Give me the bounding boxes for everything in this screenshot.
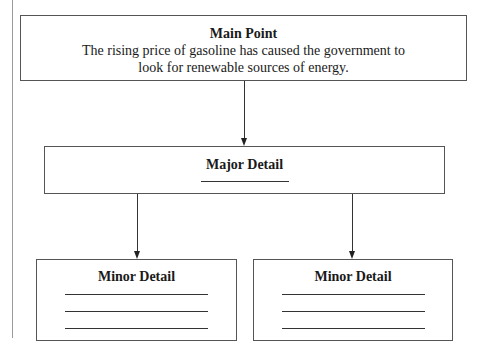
minor-detail-box-left: Minor Detail: [36, 259, 237, 341]
minor-detail-blank-line: [282, 328, 425, 329]
minor-detail-blank-line: [282, 311, 425, 312]
major-detail-title: Major Detail: [45, 156, 444, 173]
arrowhead-icon: [134, 251, 140, 259]
main-point-text-line1: The rising price of gasoline has caused …: [21, 42, 466, 59]
arrowhead-icon: [241, 138, 247, 146]
major-detail-blank-line: [201, 181, 289, 182]
page-margin-rule: [12, 0, 13, 338]
main-point-box: Main Point The rising price of gasoline …: [20, 15, 467, 81]
connector-major-to-minor-right: [352, 194, 353, 251]
major-detail-box: Major Detail: [44, 146, 445, 194]
minor-detail-blank-line: [65, 294, 208, 295]
minor-detail-blank-line: [282, 294, 425, 295]
main-point-text-line2: look for renewable sources of energy.: [21, 59, 466, 76]
main-point-title: Main Point: [21, 25, 466, 42]
arrowhead-icon: [349, 251, 355, 259]
connector-major-to-minor-left: [137, 194, 138, 251]
connector-main-to-major: [244, 81, 245, 139]
minor-detail-title: Minor Detail: [254, 268, 452, 285]
minor-detail-blank-line: [65, 328, 208, 329]
minor-detail-box-right: Minor Detail: [253, 259, 453, 341]
minor-detail-title: Minor Detail: [37, 268, 236, 285]
minor-detail-blank-line: [65, 311, 208, 312]
